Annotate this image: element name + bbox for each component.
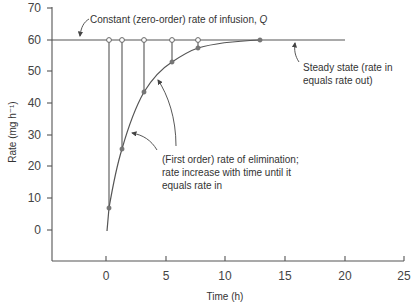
chart: 70 60 50 40 30 20 10 0 0 5 10 15 20 25 T… (0, 0, 416, 307)
y-tick-20: 20 (28, 159, 42, 173)
elimination-rate-curve (107, 40, 260, 231)
filled-dot-marker (258, 38, 262, 42)
axes (47, 7, 404, 261)
open-circle-marker (142, 38, 147, 43)
steady-state-annotation-line2: equals rate out) (303, 75, 373, 86)
x-tick-10: 10 (218, 269, 232, 283)
open-circle-marker (107, 38, 112, 43)
x-axis-title: Time (h) (207, 291, 244, 302)
x-tick-0: 0 (103, 269, 110, 283)
infusion-annotation: Constant (zero-order) rate of infusion, … (90, 14, 268, 25)
annotation-arrows (80, 19, 299, 150)
steady-state-arrow-icon (295, 43, 299, 62)
y-tick-10: 10 (28, 191, 42, 205)
x-tick-15: 15 (278, 269, 292, 283)
y-tick-40: 40 (28, 96, 42, 110)
filled-dot-marker (142, 90, 146, 94)
filled-dot-marker (120, 147, 124, 151)
elimination-arrow-upper-icon (158, 80, 176, 146)
y-tick-50: 50 (28, 64, 42, 78)
x-tick-5: 5 (163, 269, 170, 283)
y-axis-title: Rate (mg h⁻¹) (7, 101, 18, 162)
filled-dot-marker (170, 60, 174, 64)
elimination-annotation-line2: rate increase with time until it (162, 167, 291, 178)
x-tick-20: 20 (338, 269, 352, 283)
x-tick-25: 25 (397, 269, 411, 283)
y-tick-0: 0 (34, 223, 41, 237)
elimination-annotation-line3: equals rate in (162, 180, 222, 191)
y-tick-labels: 70 60 50 40 30 20 10 0 (28, 1, 42, 237)
filled-dot-marker (196, 46, 200, 50)
steady-state-annotation-line1: Steady state (rate in (303, 62, 393, 73)
y-tick-70: 70 (28, 1, 42, 15)
elimination-arrow-lower-icon (132, 133, 157, 150)
y-tick-30: 30 (28, 128, 42, 142)
x-tick-labels: 0 5 10 15 20 25 (103, 269, 411, 283)
filled-dot-marker (107, 206, 111, 210)
elimination-annotation-line1: (First order) rate of elimination; (162, 154, 299, 165)
infusion-arrow-icon (80, 19, 89, 36)
open-circle-marker (170, 38, 175, 43)
open-circle-marker (196, 38, 201, 43)
open-circle-marker (120, 38, 125, 43)
y-tick-60: 60 (28, 33, 42, 47)
